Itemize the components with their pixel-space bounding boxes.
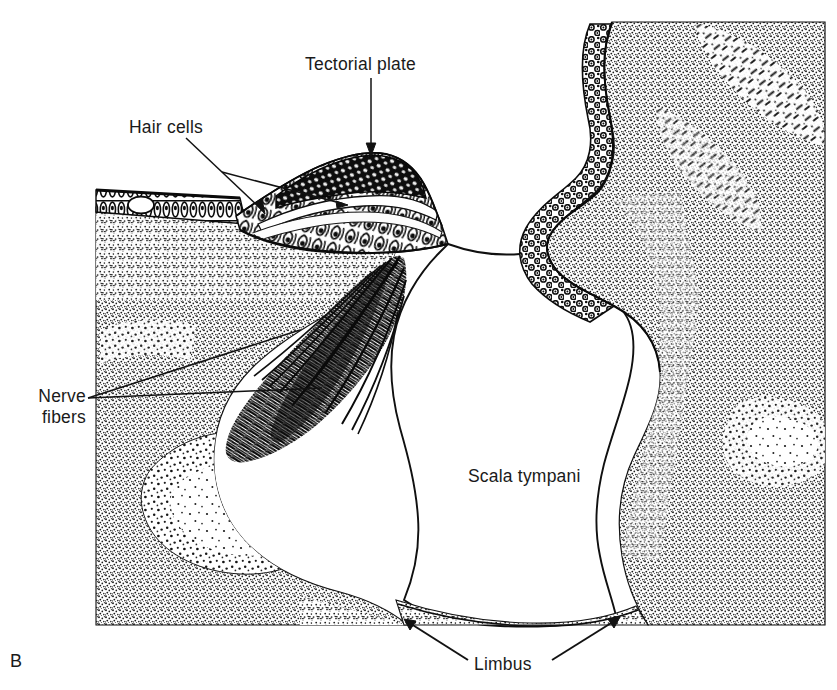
label-nerve-fibers: Nervefibers — [8, 386, 86, 427]
label-scala-tympani: Scala tympani — [468, 466, 581, 487]
epithelial-vacuole — [128, 197, 154, 214]
label-limbus: Limbus — [474, 654, 532, 675]
label-tectorial-plate: Tectorial plate — [305, 54, 416, 75]
panel-letter: B — [10, 651, 22, 672]
histology-illustration — [0, 0, 837, 690]
label-nerve-fibers-line2: fibers — [8, 407, 86, 428]
label-nerve-fibers-line1: Nerve — [38, 386, 86, 406]
histology-figure: Tectorial plate Hair cells Nervefibers S… — [0, 0, 837, 690]
label-hair-cells: Hair cells — [129, 117, 203, 138]
leader-limbus-left — [408, 622, 468, 660]
